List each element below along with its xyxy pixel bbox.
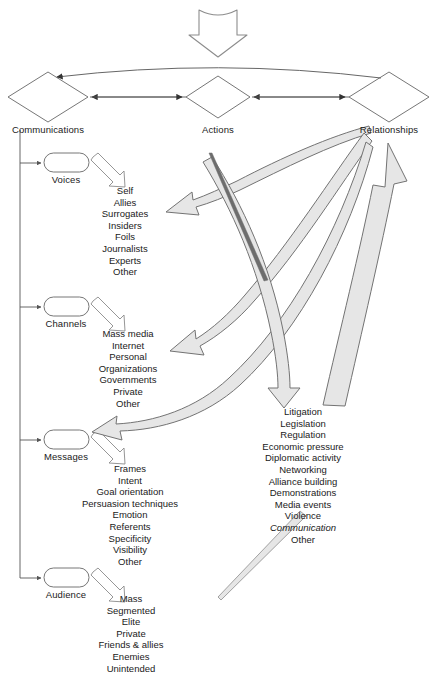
list-item: Private <box>99 628 164 640</box>
branch-list-voices: SelfAlliesSurrogatesInsidersFoilsJournal… <box>102 185 148 278</box>
branch-label-voices: Voices <box>52 174 81 185</box>
branch-label-audience: Audience <box>46 589 86 600</box>
tier-label-actions: Actions <box>202 124 234 135</box>
branch-node-channels <box>44 297 89 316</box>
list-item: Private <box>99 386 158 398</box>
list-item: Mass <box>99 593 164 605</box>
list-item: Litigation <box>262 406 343 418</box>
tier-label-relationships: Relationships <box>360 124 418 135</box>
list-item: Intent <box>82 475 178 487</box>
branch-node-audience <box>44 568 89 587</box>
list-item: Enemies <box>99 651 164 663</box>
list-item: Goal orientation <box>82 486 178 498</box>
list-item: Allies <box>102 197 148 209</box>
list-item: Foils <box>102 231 148 243</box>
tier-diamond-communications <box>8 72 88 122</box>
list-item: Mass media <box>99 328 158 340</box>
list-item: Networking <box>262 464 343 476</box>
list-item: Surrogates <box>102 208 148 220</box>
list-item: Diplomatic activity <box>262 452 343 464</box>
list-item: Media events <box>262 499 343 511</box>
branch-label-messages: Messages <box>44 451 88 462</box>
branch-list-channels: Mass mediaInternetPersonalOrganizationsG… <box>99 328 158 409</box>
list-item: Communication <box>262 522 343 534</box>
list-item: Regulation <box>262 429 343 441</box>
branch-list-audience: MassSegmentedElitePrivateFriends & allie… <box>99 593 164 674</box>
list-item: Other <box>82 556 178 568</box>
list-item: Other <box>102 266 148 278</box>
tier-diamond-actions <box>186 76 250 118</box>
outline-arrow-voices-to-list <box>91 153 125 187</box>
list-item: Journalists <box>102 243 148 255</box>
list-item: Legislation <box>262 418 343 430</box>
actions-item-list: LitigationLegislationRegulationEconomic … <box>262 406 343 545</box>
list-item: Unintended <box>99 663 164 675</box>
list-item: Referents <box>82 521 178 533</box>
branch-list-messages: FramesIntentGoal orientationPersuasion t… <box>82 463 178 567</box>
branch-label-channels: Channels <box>46 318 87 329</box>
diagram-canvas: Communications Actions Relationships Voi… <box>0 0 436 683</box>
list-item: Experts <box>102 255 148 267</box>
list-item: Frames <box>82 463 178 475</box>
list-item: Organizations <box>99 363 158 375</box>
list-item: Other <box>262 534 343 546</box>
list-item: Persuasion techniques <box>82 498 178 510</box>
list-item: Violence <box>262 510 343 522</box>
list-item: Alliance building <box>262 476 343 488</box>
list-item: Other <box>99 398 158 410</box>
tier-label-communications: Communications <box>12 124 84 135</box>
tier-diamond-relationships <box>349 72 429 122</box>
communications-branch-spine <box>20 130 41 578</box>
list-item: Internet <box>99 340 158 352</box>
list-item: Visibility <box>82 544 178 556</box>
list-item: Segmented <box>99 605 164 617</box>
list-item: Self <box>102 185 148 197</box>
list-item: Insiders <box>102 220 148 232</box>
branch-node-messages <box>44 430 89 449</box>
input-block-arrow <box>189 10 247 57</box>
list-item: Economic pressure <box>262 441 343 453</box>
outline-arrow-channels-to-list <box>91 297 125 331</box>
list-item: Elite <box>99 616 164 628</box>
diagram-vector-layer <box>0 0 436 683</box>
list-item: Specificity <box>82 533 178 545</box>
list-item: Governments <box>99 374 158 386</box>
list-item: Demonstrations <box>262 487 343 499</box>
list-item: Emotion <box>82 509 178 521</box>
list-item: Friends & allies <box>99 639 164 651</box>
branch-node-voices <box>44 153 89 172</box>
list-item: Personal <box>99 351 158 363</box>
